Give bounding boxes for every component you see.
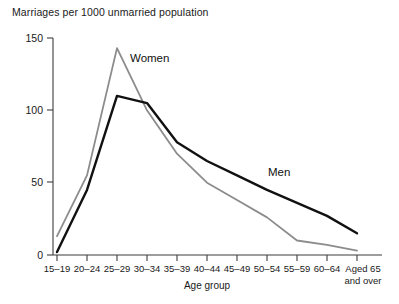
x-tick-label-3: 30–34 <box>134 263 160 274</box>
chart-plot-svg: 150 100 50 0 15–19 20–24 25–29 30–34 35–… <box>0 0 399 304</box>
x-tick-label-6: 45–49 <box>224 263 250 274</box>
series-label-women: Women <box>130 52 169 64</box>
x-axis-title: Age group <box>184 280 231 291</box>
series-label-men: Men <box>268 166 290 178</box>
x-tick-label-5: 40–44 <box>194 263 220 274</box>
series-line-men <box>57 96 357 252</box>
x-tick-label-4: 35–39 <box>164 263 190 274</box>
x-tick-label-0: 15–19 <box>44 263 70 274</box>
chart-container: Marriages per 1000 unmarried population … <box>0 0 399 304</box>
x-tick-label-7: 50–54 <box>254 263 280 274</box>
series-line-women <box>57 48 357 251</box>
x-tick-label-8: 55–59 <box>284 263 310 274</box>
y-axis-ticks <box>47 38 53 255</box>
x-axis-ticks <box>57 255 357 261</box>
x-tick-label-10-line2: and over <box>345 275 382 286</box>
y-tick-label-150: 150 <box>25 32 43 44</box>
y-tick-label-0: 0 <box>37 249 43 261</box>
y-tick-label-50: 50 <box>31 176 43 188</box>
x-tick-label-2: 25–29 <box>104 263 130 274</box>
x-tick-label-10-line1: Aged 65 <box>345 263 380 274</box>
x-tick-label-9: 60–64 <box>314 263 340 274</box>
y-tick-label-100: 100 <box>25 104 43 116</box>
x-tick-label-1: 20–24 <box>74 263 100 274</box>
